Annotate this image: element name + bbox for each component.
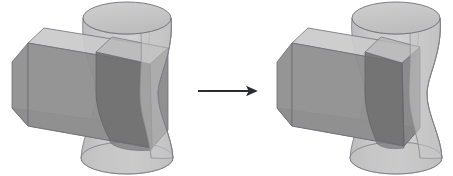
prism-left-end-face (12, 43, 28, 126)
prism-left-end-face (277, 43, 292, 126)
diagram-canvas (0, 0, 453, 176)
hyperboloid-top-cap (83, 2, 171, 34)
left-figure[interactable] (12, 2, 173, 174)
right-figure[interactable] (277, 2, 442, 174)
hyperboloid-top-cap (352, 2, 440, 34)
